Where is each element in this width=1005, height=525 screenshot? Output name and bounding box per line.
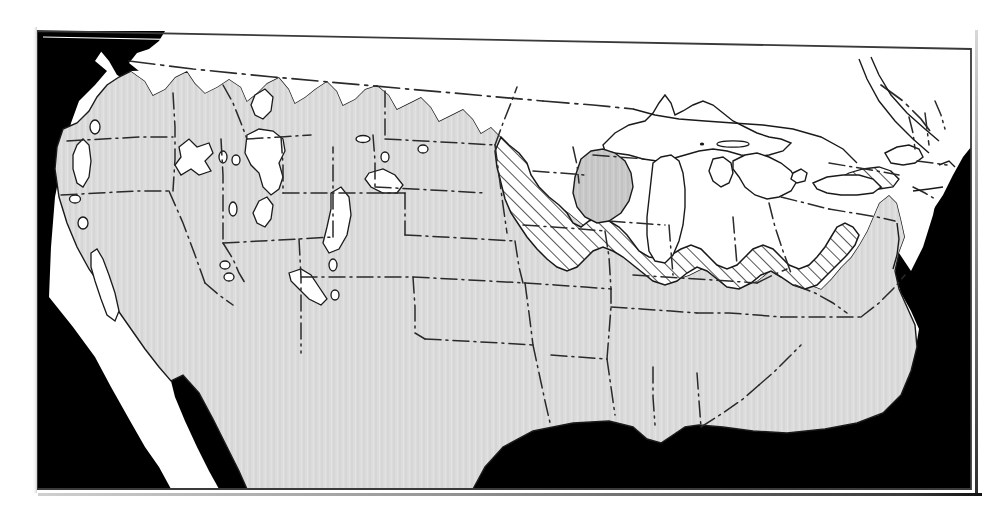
waterbody-ne-small [418, 145, 428, 153]
waterbody-wa-small [90, 120, 100, 134]
waterbody-id-small-2 [232, 155, 240, 165]
waterbody-nv-1 [229, 202, 237, 216]
waterbody-co-2 [224, 273, 234, 281]
waterbody-id-small [219, 151, 227, 163]
waterbody-co-1 [220, 261, 230, 269]
island-dot-2 [717, 141, 749, 147]
waterbody-nd-small [356, 136, 370, 143]
map-frame [33, 27, 975, 493]
lake-erie [813, 175, 881, 195]
frame-left-highlight [33, 27, 37, 493]
frame-shadow-bottom [38, 493, 982, 496]
waterbody-nm-small-1 [329, 259, 337, 271]
waterbody-sd-small [381, 152, 389, 162]
map-svg [33, 27, 975, 493]
waterbody-ca-mid [78, 217, 88, 229]
waterbody-nm-small-2 [331, 290, 339, 300]
figure-canvas [0, 0, 1005, 525]
island-dot-1 [700, 142, 704, 145]
waterbody-ca-north [70, 195, 81, 203]
frame-shadow-right [975, 30, 978, 495]
